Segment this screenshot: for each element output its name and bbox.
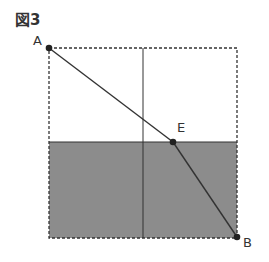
segment-AE [49,48,173,142]
point-B-label: B [243,235,252,250]
point-A-dot [46,45,53,52]
point-E-dot [170,139,177,146]
point-B-dot [234,234,241,241]
point-E-label: E [177,120,185,135]
point-A-label: A [33,33,42,48]
